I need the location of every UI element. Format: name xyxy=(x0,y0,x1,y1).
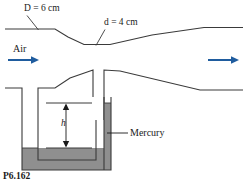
figure-caption: P6.162 xyxy=(3,172,30,182)
lower-pipe-contour-converging xyxy=(38,70,93,120)
flow-arrow-inlet xyxy=(8,56,39,63)
label-fluid-air: Air xyxy=(13,44,26,54)
leader-line-upstream-diameter xyxy=(27,16,39,31)
label-manometer-height: h xyxy=(61,119,66,129)
label-mercury: Mercury xyxy=(130,128,164,138)
label-upstream-diameter: D = 6 cm xyxy=(24,4,60,14)
upper-pipe-contour xyxy=(5,28,243,45)
label-throat-diameter: d = 4 cm xyxy=(104,18,138,28)
lower-pipe-contour-diverging xyxy=(104,70,243,120)
flow-arrow-outlet xyxy=(208,56,239,63)
leader-line-throat-diameter xyxy=(96,30,105,46)
lower-pipe-contour-left xyxy=(5,88,22,97)
